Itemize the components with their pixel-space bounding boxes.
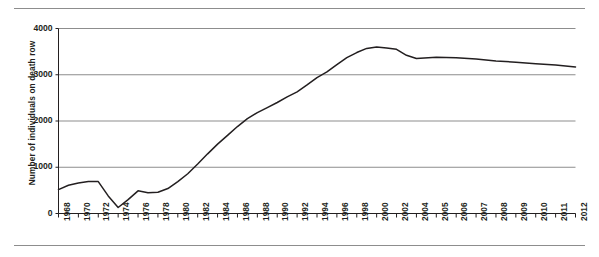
x-tick-label-1980: 1980 [181,202,191,221]
x-tick-label-2007: 2007 [479,202,489,221]
x-tick-label-2000: 2000 [380,202,390,221]
x-tick-label-1984: 1984 [221,202,231,221]
y-tick-label-3000: 3000 [19,69,53,79]
x-tick-label-1996: 1996 [340,202,350,221]
x-tick-label-2010: 2010 [539,202,549,221]
x-tick-label-2002: 2002 [400,202,410,221]
bottom-divider-rule [14,245,585,246]
x-tick-label-2006: 2006 [459,202,469,221]
x-tick-label-2004: 2004 [420,202,430,221]
x-tick-label-1968: 1968 [62,202,72,221]
chart-figure: Number of individuals on death row 01000… [0,0,599,257]
x-tick-label-2009: 2009 [519,202,529,221]
y-tick-label-4000: 4000 [19,23,53,33]
x-tick-label-1988: 1988 [261,202,271,221]
x-tick-label-1978: 1978 [161,202,171,221]
x-tick-label-2011: 2011 [559,202,569,220]
x-tick-label-1990: 1990 [280,202,290,221]
x-tick-label-2005: 2005 [440,202,450,221]
data-series-line [59,47,576,207]
y-tick-label-0: 0 [19,208,53,218]
y-tick-label-2000: 2000 [19,115,53,125]
x-tick-label-2008: 2008 [499,202,509,221]
x-tick-label-1974: 1974 [121,202,131,221]
y-tick-label-1000: 1000 [19,161,53,171]
x-tick-label-1986: 1986 [241,202,251,221]
x-tick-label-1982: 1982 [201,202,211,221]
x-tick-label-1992: 1992 [300,202,310,221]
x-tick-label-1994: 1994 [320,202,330,221]
x-tick-label-1976: 1976 [141,202,151,221]
x-tick-label-1972: 1972 [101,202,111,221]
x-tick-label-1998: 1998 [360,202,370,221]
x-tick-label-1970: 1970 [82,202,92,221]
x-tick-label-2012: 2012 [579,202,589,221]
